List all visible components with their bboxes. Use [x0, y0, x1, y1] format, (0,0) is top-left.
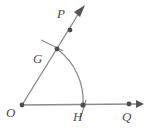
point-o-dot	[20, 103, 25, 108]
ray-op-arrowhead	[74, 5, 85, 17]
point-label-h: H	[73, 110, 82, 123]
ray-op-line	[22, 13, 79, 105]
point-p-dot	[68, 28, 73, 33]
point-g-dot	[55, 47, 60, 52]
point-label-o: O	[6, 106, 15, 119]
point-h-dot	[80, 102, 85, 107]
point-label-p: P	[57, 7, 65, 20]
ray-oq-line	[22, 104, 136, 105]
point-q-dot	[127, 102, 132, 107]
compass-arc-gh	[57, 49, 83, 105]
geometry-diagram: O G P H Q	[0, 0, 156, 133]
compass-tick-g	[41, 40, 63, 51]
ray-oq-arrowhead	[136, 100, 144, 108]
point-label-g: G	[33, 52, 42, 65]
point-label-q: Q	[122, 110, 131, 123]
